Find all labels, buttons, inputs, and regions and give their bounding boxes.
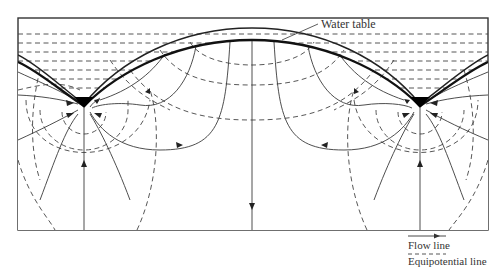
water-table-callout: Water table bbox=[282, 17, 376, 40]
legend: Flow line Equipotential line bbox=[408, 234, 487, 268]
water-table-callout-label: Water table bbox=[321, 17, 376, 31]
flow-net-diagram: Water table Flow line Equipotential line bbox=[0, 0, 504, 270]
legend-item-flow-line: Flow line bbox=[408, 234, 450, 252]
legend-item-equipotential-line: Equipotential line bbox=[408, 254, 487, 267]
legend-label-flow-line: Flow line bbox=[408, 239, 450, 251]
legend-label-equipotential-line: Equipotential line bbox=[408, 255, 487, 267]
